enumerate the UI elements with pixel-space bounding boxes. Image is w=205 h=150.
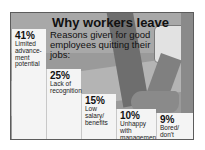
step-label: Bored/ don't know [160, 125, 190, 140]
step-bar-4: 10% Unhappy with management [116, 109, 156, 140]
step-bar-1: 41% Limitedadvance-mentpotential [12, 29, 46, 140]
step-label: Unhappy with management [120, 121, 156, 140]
step-bar-5: 9% Bored/ don't know [156, 113, 194, 140]
step-bar-2: 25% Lack of recognition [46, 69, 81, 140]
step-bar-3: 15% Low salary/ benefits [81, 94, 116, 140]
step-label: Low salary/ benefits [85, 106, 117, 126]
step-label: Limitedadvance-mentpotential [15, 41, 41, 68]
chart-subtitle: Reasons given for good employees quittin… [50, 30, 170, 60]
step-label: Lack of recognition [50, 81, 82, 95]
chart-title: Why workers leave [52, 16, 169, 29]
